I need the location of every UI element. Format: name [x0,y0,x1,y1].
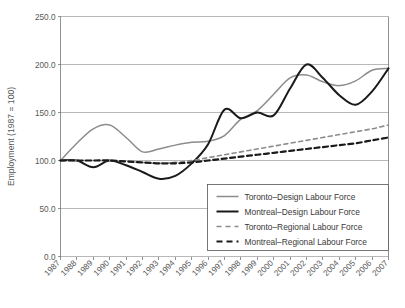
y-axis-title-text: Employment (1987 = 100) [6,87,16,186]
y-tick-label: 200.0 [35,61,56,70]
y-tick-label: 150.0 [35,109,56,118]
y-tick-label: 50.0 [40,205,56,214]
employment-index-line-chart: 0.050.0100.0150.0200.0250.0 198719881989… [0,0,405,308]
chart-canvas: 0.050.0100.0150.0200.0250.0 198719881989… [0,0,405,308]
legend-label-1: Montreal–Design Labour Force [245,207,361,217]
y-tick-label: 100.0 [35,157,56,166]
legend-label-3: Montreal–Regional Labour Force [245,237,368,247]
y-axis-title: Employment (1987 = 100) [6,87,16,186]
x-axis-tick-marks [61,257,389,260]
legend-label-0: Toronto–Design Labour Force [245,192,356,202]
y-tick-label: 250.0 [35,13,56,22]
legend-label-2: Toronto–Regional Labour Force [245,222,363,232]
chart-legend: Toronto–Design Labour ForceMontreal–Desi… [208,185,389,251]
